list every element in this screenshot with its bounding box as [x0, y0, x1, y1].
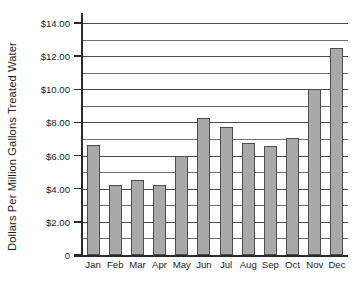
bar	[242, 143, 255, 255]
bar	[109, 185, 122, 255]
y-axis-tick-label: $14.00	[0, 18, 70, 29]
x-axis-labels: JanFebMarAprMayJunJulAugSepOctNovDec	[82, 259, 348, 277]
bar	[175, 156, 188, 255]
y-axis-tick-label: $4.00	[0, 183, 70, 194]
bar	[87, 145, 100, 255]
y-axis-tick	[74, 22, 82, 24]
y-axis-tick	[74, 55, 82, 57]
y-axis-tick-label: $8.00	[0, 117, 70, 128]
bar	[264, 146, 277, 255]
bar	[153, 185, 166, 255]
x-axis-tick-label: Dec	[320, 259, 354, 270]
bars-layer	[82, 13, 348, 255]
bar	[197, 118, 210, 255]
y-axis-tick-label: $2.00	[0, 216, 70, 227]
y-axis-tick-label: 0	[0, 250, 70, 261]
bar	[220, 127, 233, 255]
y-axis-tick-label: $12.00	[0, 51, 70, 62]
bar	[131, 180, 144, 255]
y-axis-tick-label: $6.00	[0, 150, 70, 161]
bar	[330, 48, 343, 255]
y-axis-tick	[74, 89, 82, 91]
y-axis-tick	[74, 122, 82, 124]
x-axis-line	[74, 255, 348, 257]
y-axis-tick-label: $10.00	[0, 84, 70, 95]
bar	[308, 89, 321, 255]
bar-chart: Dollars Per Million Gallons Treated Wate…	[0, 0, 358, 293]
y-axis-tick	[74, 188, 82, 190]
y-axis-tick	[74, 254, 82, 256]
y-axis-tick	[74, 155, 82, 157]
y-axis-tick	[74, 221, 82, 223]
bar	[286, 138, 299, 255]
